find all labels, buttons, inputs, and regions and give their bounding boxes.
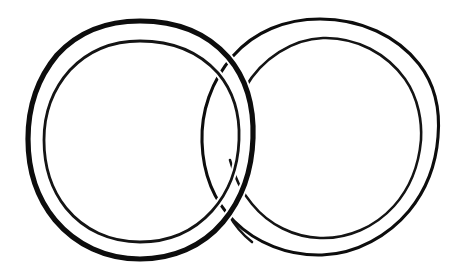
right-ring-inner-contour-visible [230,38,421,238]
interlocking-rings-drawing [0,0,467,280]
figure-canvas [0,0,467,280]
left-ring [28,21,253,259]
